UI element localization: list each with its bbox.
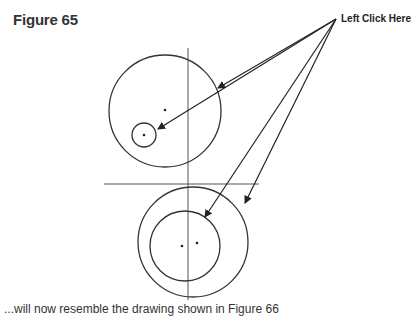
top-small-center-dot — [143, 134, 146, 137]
bottom-outer-center-dot — [196, 242, 199, 245]
top-large-center-dot — [164, 109, 167, 112]
bottom-inner-center-dot — [181, 245, 184, 248]
bottom-inner-circle[interactable] — [150, 211, 220, 281]
caption-text: ...will now resemble the drawing shown i… — [4, 302, 279, 316]
arrow-to-bottom-inner-circle — [205, 19, 336, 217]
